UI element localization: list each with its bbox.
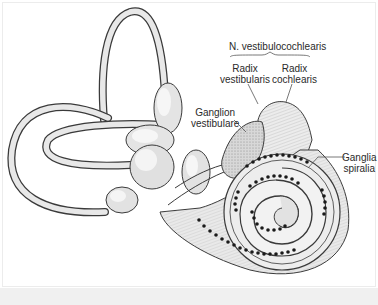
label-ganglion-vestibulare-line2: vestibulare — [191, 118, 239, 129]
label-radix-vestibularis-line1: Radix — [220, 63, 270, 74]
label-radix-vestibularis-line2: vestibularis — [220, 74, 270, 85]
caption-strip — [0, 288, 378, 305]
label-ganglion-vestibulare-line1: Ganglion — [191, 107, 239, 118]
label-radix-vestibularis: Radix vestibularis — [220, 63, 270, 85]
label-ganglia-spiralia-line2: spiralia — [342, 163, 376, 174]
label-ganglion-vestibulare: Ganglion vestibulare — [191, 107, 239, 129]
label-n-vestibulocochlearis: N. vestibulocochlearis — [229, 41, 326, 52]
label-radix-cochlearis: Radix cochlearis — [272, 63, 317, 85]
label-ganglia-spiralia: Ganglia spiralia — [342, 152, 376, 174]
figure-frame: N. vestibulocochlearis Radix vestibulari… — [0, 0, 378, 305]
label-radix-cochlearis-line2: cochlearis — [272, 74, 317, 85]
label-radix-cochlearis-line1: Radix — [272, 63, 317, 74]
vestibule — [106, 83, 210, 213]
label-ganglia-spiralia-line1: Ganglia — [342, 152, 376, 163]
